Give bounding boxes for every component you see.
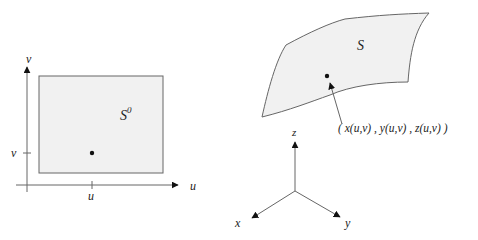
u-tick-label: u	[88, 189, 94, 203]
parameter-domain: u v u v S0	[11, 52, 196, 203]
surface-3d: S ( x(u,v) , y(u,v) , z(u,v) ) z x y	[234, 13, 448, 230]
x-axis	[252, 191, 295, 218]
v-tick-label: v	[11, 146, 17, 160]
surface-point	[325, 74, 329, 78]
region-s0	[39, 76, 163, 173]
domain-point	[90, 151, 94, 155]
y-axis	[295, 191, 340, 217]
surface-s	[262, 13, 429, 117]
x-axis-label: x	[234, 216, 241, 230]
region-superscript: 0	[127, 105, 132, 115]
u-axis-label: u	[190, 179, 196, 193]
point-label: ( x(u,v) , y(u,v) , z(u,v) )	[338, 122, 448, 135]
z-axis-label: z	[291, 126, 297, 138]
surface-label: S	[357, 38, 364, 53]
y-axis-label: y	[344, 216, 351, 230]
parametric-surface-diagram: u v u v S0 S ( x(u,v) , y(u,v) , z(u,v) …	[0, 0, 478, 240]
v-axis-label: v	[26, 52, 32, 66]
